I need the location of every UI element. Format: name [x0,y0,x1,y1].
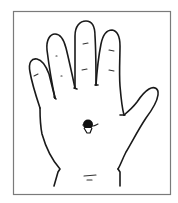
frame-border [14,12,171,195]
hand-diagram: Line drawing of an open right palm with … [0,0,178,203]
web-mark [74,88,77,89]
